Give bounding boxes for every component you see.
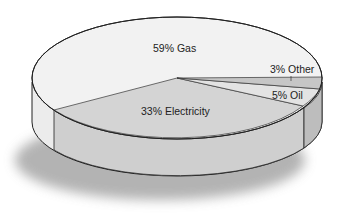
label-gas: 59% Gas [153,42,196,54]
label-other: 3% Other [270,63,314,75]
label-electricity: 33% Electricity [141,105,210,117]
label-oil: 5% Oil [272,89,303,101]
